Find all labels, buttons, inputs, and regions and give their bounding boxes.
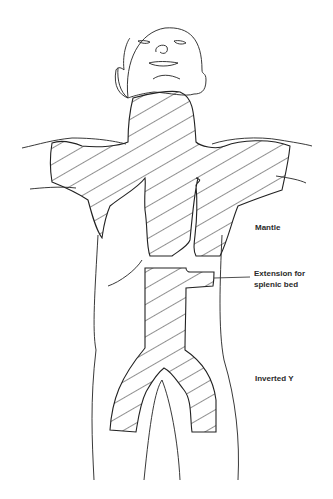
torso-right [220, 235, 238, 480]
inverted-y-field [110, 268, 216, 432]
mantle-label: Mantle [255, 222, 280, 233]
hip-line [108, 260, 142, 286]
head-outline [115, 28, 206, 98]
head-side [118, 68, 128, 98]
torso-left [92, 235, 98, 480]
extension-label-line2: splenic bed [254, 279, 298, 290]
legs-gap [144, 380, 180, 480]
body-diagram [0, 0, 333, 499]
extension-label-line1: Extension for [254, 268, 305, 279]
inverted-y-label: Inverted Y [255, 373, 294, 384]
